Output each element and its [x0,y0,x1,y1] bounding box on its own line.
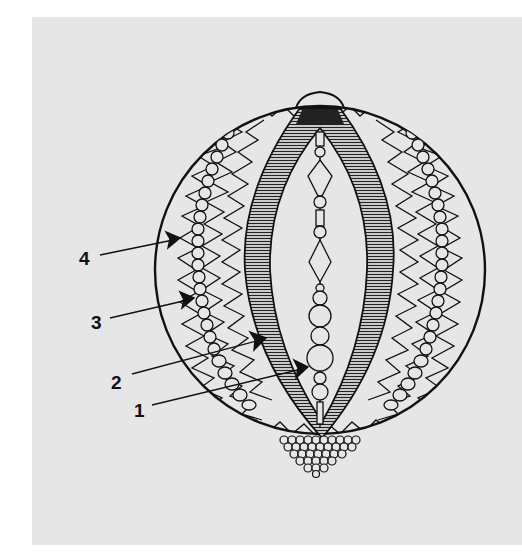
ornament-diagram [0,0,522,555]
callout-label-1: 1 [134,401,145,420]
bottom-bead-cluster [280,436,360,478]
callout-label-4: 4 [79,249,90,268]
band-top-dark [296,110,344,124]
callout-label-3: 3 [91,313,102,332]
callout-label-2: 2 [111,373,122,392]
